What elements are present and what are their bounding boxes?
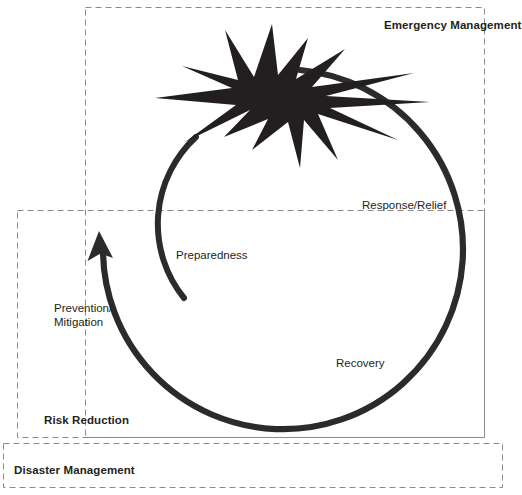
prevention-line-2: Mitigation (54, 316, 112, 330)
explosion-burst-icon (155, 24, 430, 168)
stage-label-response-relief: Response/Relief (362, 199, 446, 213)
prevention-line-1: Prevention/ (54, 302, 112, 316)
stage-label-prevention-mitigation: Prevention/ Mitigation (54, 302, 112, 329)
emergency-management-label: Emergency Management (384, 19, 522, 31)
stage-label-recovery: Recovery (336, 357, 385, 371)
preparedness-arc (158, 137, 196, 298)
stage-label-preparedness: Preparedness (176, 249, 248, 263)
disaster-management-label: Disaster Management (14, 464, 135, 476)
risk-reduction-label: Risk Reduction (44, 414, 129, 426)
